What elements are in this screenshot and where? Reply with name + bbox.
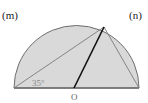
angle-label: 35°: [32, 78, 45, 88]
label-m: (m): [2, 9, 18, 22]
center-label-o: O: [71, 92, 78, 102]
semicircle-diagram: (m) (n) 35° O: [0, 0, 148, 103]
label-n: (n): [129, 9, 142, 22]
